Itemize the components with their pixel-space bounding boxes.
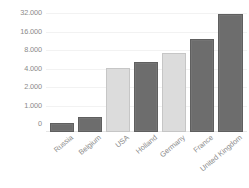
y-tick-label-4000: 4.000: [24, 65, 42, 73]
bar-france[interactable]: [190, 39, 214, 132]
y-tick-label-8000: 8.000: [24, 46, 42, 54]
x-tick-label-france: France: [192, 133, 215, 154]
bars-layer: [46, 8, 247, 132]
x-tick-label-russia: Russia: [52, 133, 75, 154]
bar-holland[interactable]: [134, 62, 158, 132]
x-tick-label-holland: Holland: [134, 133, 159, 156]
bar-chart: 32.000 16.000 8.000 4.000 2.000 1.000 0 …: [0, 0, 249, 188]
x-tick-label-germany: Germany: [158, 133, 187, 159]
bar-usa[interactable]: [106, 68, 130, 132]
x-axis: Russia Belgium USA Holland Germany Franc…: [46, 133, 249, 188]
y-tick-label-0: 0: [38, 120, 42, 128]
y-tick-label-2000: 2.000: [24, 83, 42, 91]
y-tick-label-16000: 16.000: [20, 28, 42, 36]
bar-germany[interactable]: [162, 53, 186, 132]
y-tick-label-32000: 32.000: [20, 9, 42, 17]
bar-belgium[interactable]: [78, 117, 102, 132]
x-tick-label-belgium: Belgium: [77, 133, 103, 157]
x-tick-label-usa: USA: [113, 133, 130, 150]
y-tick-label-1000: 1.000: [24, 102, 42, 110]
bar-russia[interactable]: [50, 123, 74, 132]
y-axis: 32.000 16.000 8.000 4.000 2.000 1.000 0: [0, 0, 44, 140]
bar-united-kingdom[interactable]: [218, 14, 243, 132]
